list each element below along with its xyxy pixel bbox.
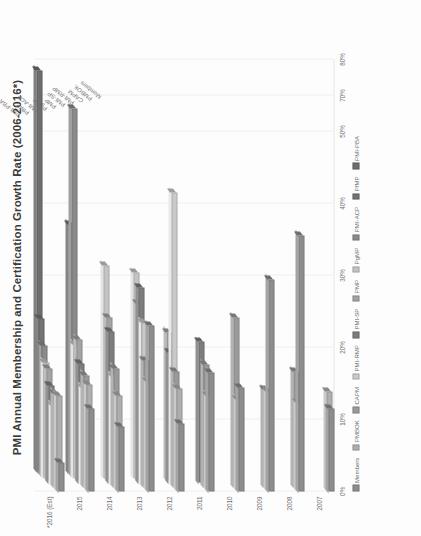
legend-swatch-icon bbox=[353, 266, 360, 273]
grid-line bbox=[35, 131, 335, 132]
value-axis-tick-label: 0% bbox=[339, 487, 346, 496]
legend-item-members[interactable]: Members bbox=[353, 458, 360, 492]
legend-item-label: PMBOK bbox=[353, 420, 360, 442]
bar-face bbox=[269, 279, 275, 491]
category-axis-tick-label: 2013 bbox=[136, 497, 143, 511]
value-axis-tick-label: 30% bbox=[339, 269, 346, 282]
legend-swatch-icon bbox=[353, 407, 360, 414]
legend-swatch-icon bbox=[353, 332, 360, 339]
grid-line bbox=[35, 491, 335, 492]
bar-members-2009 bbox=[269, 279, 275, 491]
bar-members-2016 bbox=[59, 463, 65, 492]
legend-item-label: PMI-SP bbox=[353, 309, 360, 330]
legend-item-label: PfMP bbox=[353, 176, 360, 191]
grid-line bbox=[35, 59, 335, 60]
legend-item-label: CAPM bbox=[353, 387, 360, 405]
legend-swatch-icon bbox=[353, 163, 360, 170]
category-axis-tick-label: 2014 bbox=[106, 497, 113, 511]
legend-item-pgmp[interactable]: PgMP bbox=[353, 248, 360, 273]
category-axis-tick-label: 2012 bbox=[166, 497, 173, 511]
value-axis-tick-label: 40% bbox=[339, 197, 346, 210]
plot-area: 0%10%20%30%40%50%70%80%20072008200920102… bbox=[35, 60, 335, 492]
category-axis-tick-label: 2015 bbox=[76, 497, 83, 511]
legend-swatch-icon bbox=[353, 485, 360, 492]
bar-members-2012 bbox=[179, 423, 185, 491]
bar-face bbox=[239, 387, 245, 491]
chart-figure: PMI Annual Membership and Certification … bbox=[1, 0, 421, 536]
legend-item-label: PMI-RMP bbox=[353, 345, 360, 371]
category-axis-tick-label: 2011 bbox=[196, 497, 203, 511]
legend-item-label: PMI-PBA bbox=[353, 136, 360, 161]
bar-face bbox=[149, 326, 155, 492]
legend-swatch-icon bbox=[353, 295, 360, 302]
bar-face bbox=[209, 373, 215, 492]
value-axis-tick-label: 70% bbox=[339, 89, 346, 102]
category-axis-tick-label: 2010 bbox=[226, 497, 233, 511]
bar-members-2014 bbox=[119, 427, 125, 492]
legend-item-label: Members bbox=[353, 458, 360, 483]
value-axis-tick-label: 10% bbox=[339, 413, 346, 426]
legend-swatch-icon bbox=[353, 193, 360, 200]
legend-item-pmp[interactable]: PMP bbox=[353, 280, 360, 302]
bar-face bbox=[179, 423, 185, 491]
legend-swatch-icon bbox=[353, 444, 360, 451]
category-axis-tick-label: 2008 bbox=[286, 497, 293, 511]
rotated-figure-wrapper: PMI Annual Membership and Certification … bbox=[1, 0, 421, 536]
bar-face bbox=[329, 409, 335, 492]
page-title: PMI Annual Membership and Certification … bbox=[11, 0, 23, 536]
category-axis-tick-label: 2009 bbox=[256, 497, 263, 511]
bar-members-2011 bbox=[209, 373, 215, 492]
bar-members-2015 bbox=[89, 409, 95, 492]
chart-page: PMI Annual Membership and Certification … bbox=[0, 0, 421, 536]
legend-item-capm[interactable]: CAPM bbox=[353, 387, 360, 413]
bar-face bbox=[89, 409, 95, 492]
chart-legend: MembersPMBOKCAPMPMI-RMPPMI-SPPMPPgMPPMI-… bbox=[353, 52, 360, 492]
grid-line bbox=[35, 275, 335, 276]
bar-members-2013 bbox=[149, 326, 155, 492]
legend-item-pmbok[interactable]: PMBOK bbox=[353, 420, 360, 451]
legend-item-label: PMP bbox=[353, 280, 360, 293]
legend-item-pfmp[interactable]: PfMP bbox=[353, 176, 360, 199]
bar-members-2007 bbox=[329, 409, 335, 492]
bar-members-2008 bbox=[299, 236, 305, 492]
value-axis-tick-label: 80% bbox=[339, 53, 346, 66]
legend-swatch-icon bbox=[353, 234, 360, 241]
value-axis-tick-label: 20% bbox=[339, 341, 346, 354]
category-axis-tick-label: *2016 (Est) bbox=[46, 497, 53, 529]
bar-members-2010 bbox=[239, 387, 245, 491]
legend-swatch-icon bbox=[353, 373, 360, 380]
legend-item-label: PMI-ACP bbox=[353, 207, 360, 232]
legend-item-pmi-sp[interactable]: PMI-SP bbox=[353, 309, 360, 339]
legend-item-label: PgMP bbox=[353, 248, 360, 265]
bar-face bbox=[59, 463, 65, 492]
bar-face bbox=[299, 236, 305, 492]
value-axis-tick-label: 50% bbox=[339, 125, 346, 138]
legend-item-pmi-rmp[interactable]: PMI-RMP bbox=[353, 345, 360, 380]
grid-line bbox=[35, 203, 335, 204]
bar-face bbox=[119, 427, 125, 492]
legend-item-pmi-pba[interactable]: PMI-PBA bbox=[353, 136, 360, 170]
legend-item-pmi-acp[interactable]: PMI-ACP bbox=[353, 207, 360, 241]
category-axis-tick-label: 2007 bbox=[316, 497, 323, 511]
